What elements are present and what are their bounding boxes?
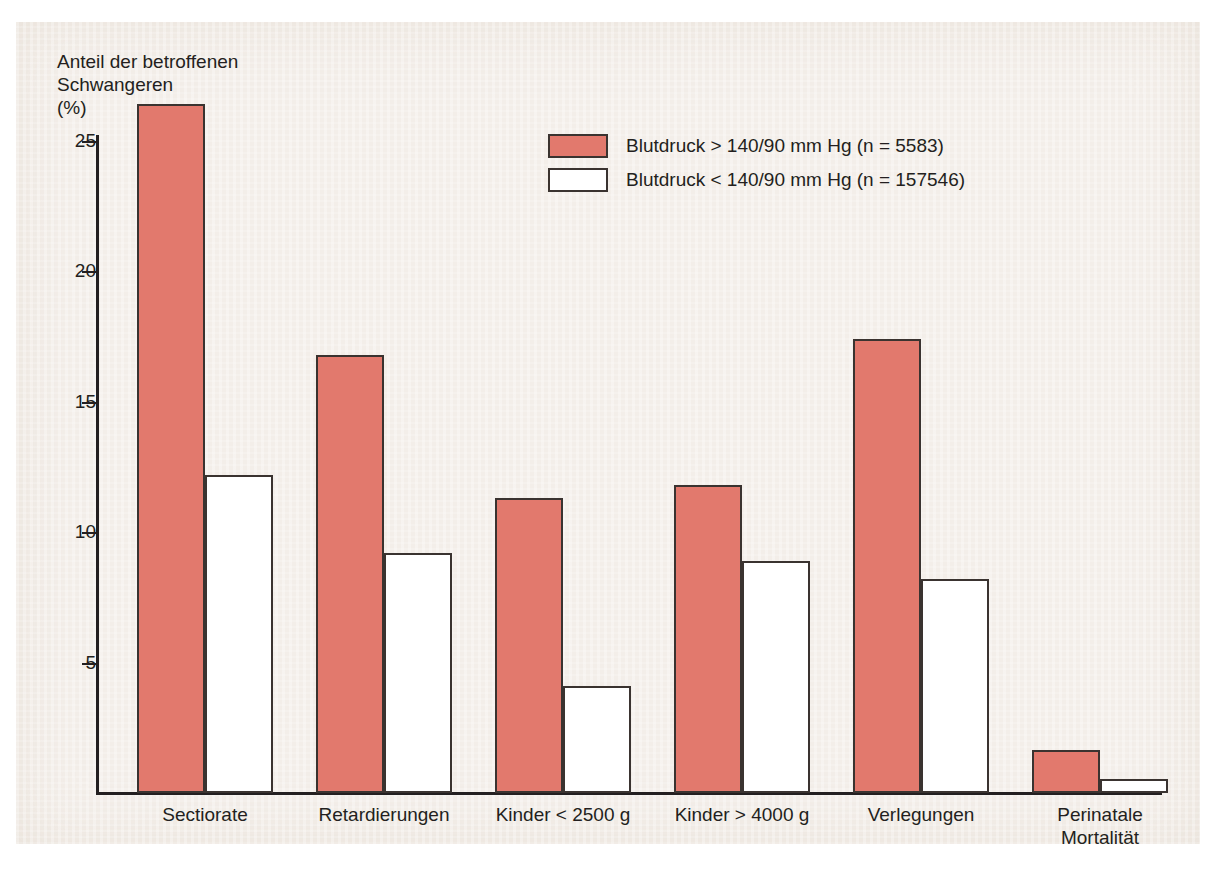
bar (137, 104, 205, 793)
bar (563, 686, 631, 793)
bar-chart: Anteil der betroffenen Schwangeren (%) 2… (0, 0, 1216, 888)
chart-legend: Blutdruck > 140/90 mm Hg (n = 5583)Blutd… (548, 131, 965, 199)
scanned-page: Anteil der betroffenen Schwangeren (%) 2… (0, 0, 1216, 888)
bar (205, 475, 273, 793)
bar (384, 553, 452, 793)
legend-swatch (548, 168, 608, 192)
bars-layer (0, 0, 1216, 793)
bar (1100, 779, 1168, 793)
legend-label: Blutdruck > 140/90 mm Hg (n = 5583) (626, 135, 944, 157)
legend-label: Blutdruck < 140/90 mm Hg (n = 157546) (626, 169, 965, 191)
bar (742, 561, 810, 793)
bar (921, 579, 989, 793)
bar (1032, 750, 1100, 793)
legend-item: Blutdruck > 140/90 mm Hg (n = 5583) (548, 131, 965, 161)
bar (495, 498, 563, 793)
x-axis-label: Perinatale Mortalität (990, 803, 1210, 849)
bar (316, 355, 384, 793)
legend-item: Blutdruck < 140/90 mm Hg (n = 157546) (548, 165, 965, 195)
legend-swatch (548, 134, 608, 158)
bar (853, 339, 921, 793)
bar (674, 485, 742, 793)
